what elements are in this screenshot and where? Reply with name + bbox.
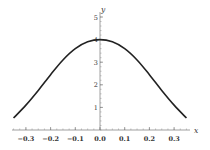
x-tick-label: 0.3 <box>168 135 180 143</box>
line-chart: −0.3−0.2−0.10.00.10.20.312345xy <box>0 0 210 150</box>
x-tick-label: −0.1 <box>67 135 84 143</box>
y-axis-label: y <box>100 5 106 14</box>
chart: −0.3−0.2−0.10.00.10.20.312345xy <box>0 0 210 150</box>
x-tick-label: 0.2 <box>144 135 155 143</box>
y-tick-label: 3 <box>94 59 98 67</box>
x-axis-label: x <box>194 126 199 135</box>
x-tick-label: −0.3 <box>18 135 35 143</box>
x-tick-label: 0.0 <box>94 135 106 143</box>
y-tick-label: 2 <box>94 81 98 89</box>
y-tick-label: 1 <box>94 104 98 112</box>
x-tick-label: −0.2 <box>42 135 59 143</box>
x-tick-label: 0.1 <box>119 135 130 143</box>
y-tick-label: 5 <box>94 14 98 22</box>
